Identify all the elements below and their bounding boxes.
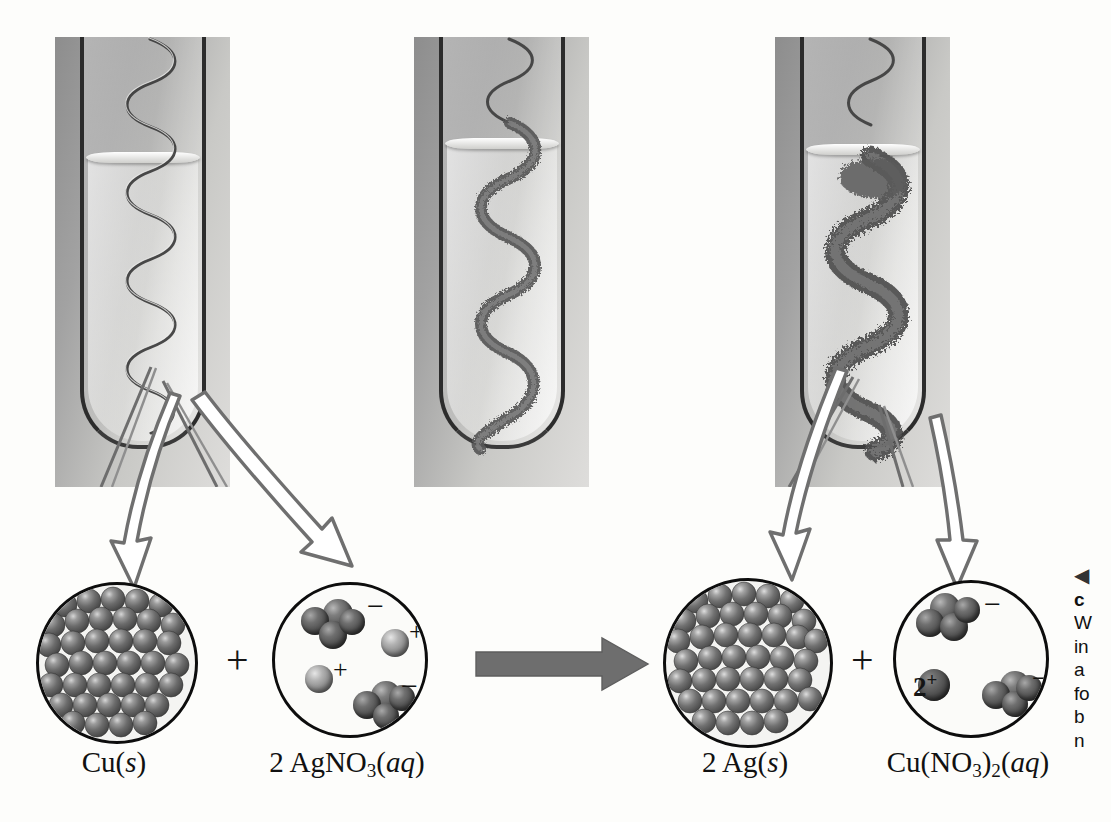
plus-sign-products: + xyxy=(851,640,874,680)
caption-line: n xyxy=(1074,729,1111,753)
nitrate-oxygen-sphere xyxy=(954,597,980,623)
copper-coil-partially-silvered xyxy=(414,37,589,487)
silver-ion-sphere xyxy=(305,665,333,693)
silver-lattice-spheres xyxy=(666,581,830,745)
charge-label-nitrate-minus: − xyxy=(401,671,418,701)
label-agno3-solution: 2 AgNO3(aq) xyxy=(257,746,437,782)
caption-line: W xyxy=(1074,611,1111,635)
caption-line: fo xyxy=(1074,682,1111,706)
copper-lattice-spheres xyxy=(39,585,195,741)
caption-line: b xyxy=(1074,705,1111,729)
caption-marker-icon: ◀ xyxy=(1074,566,1111,584)
charge-label-silver-plus: + xyxy=(409,619,424,645)
inset-cu-solid xyxy=(36,582,198,744)
charge-number: 2 xyxy=(913,672,927,702)
inset-ag-solid xyxy=(663,578,833,748)
inset-cuno32-solution: − 2+ − xyxy=(893,580,1049,738)
label-cu-solid: Cu(s) xyxy=(36,746,192,779)
figure-caption: ◀ c W in a fo b n xyxy=(1074,566,1111,756)
reaction-yields-arrow xyxy=(474,636,650,692)
copper-coil-silver-encrusted xyxy=(775,37,950,487)
photo-copper-coil-before xyxy=(55,37,230,487)
photo-copper-coil-during xyxy=(414,37,589,487)
inset-agno3-solution: − + + − xyxy=(272,582,428,738)
label-ag-solid: 2 Ag(s) xyxy=(663,746,827,779)
charge-label-nitrate-minus: − xyxy=(1032,663,1049,693)
charge-label-silver-plus: + xyxy=(333,657,348,683)
figure-root: Cu(s) + − + + − 2 AgNO3(aq) xyxy=(0,0,1111,822)
caption-line: in xyxy=(1074,635,1111,659)
nitrate-oxygen-sphere xyxy=(339,609,365,635)
charge-label-copper-two-plus: 2+ xyxy=(913,670,937,701)
plus-sign-reactants: + xyxy=(226,640,249,680)
copper-coil-clean xyxy=(55,37,230,487)
label-cuno32-solution: Cu(NO3)2(aq) xyxy=(868,746,1068,782)
photo-copper-coil-after xyxy=(775,37,950,487)
charge-sign: + xyxy=(927,669,938,690)
caption-line: a xyxy=(1074,658,1111,682)
silver-ion-sphere xyxy=(381,629,409,657)
charge-label-nitrate-minus: − xyxy=(984,589,1001,619)
charge-label-nitrate-minus: − xyxy=(367,591,384,621)
caption-title: c xyxy=(1074,589,1111,611)
